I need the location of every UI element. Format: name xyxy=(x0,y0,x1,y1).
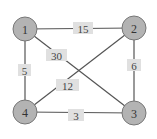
weight-label-1-2: 15 xyxy=(73,22,93,35)
graph-diagram: 15 30 5 6 12 3 1 2 xyxy=(0,0,157,139)
node-label: 4 xyxy=(22,106,28,120)
edge-2-4 xyxy=(25,28,134,112)
weight-text: 12 xyxy=(62,80,73,92)
node-2: 2 xyxy=(122,16,146,40)
node-1: 1 xyxy=(13,17,37,41)
weight-label-1-4: 5 xyxy=(18,64,31,77)
node-4: 4 xyxy=(13,100,37,124)
node-label: 3 xyxy=(131,107,137,121)
weight-text: 3 xyxy=(73,110,79,122)
node-label: 2 xyxy=(131,22,137,36)
weight-label-1-3: 30 xyxy=(46,49,67,62)
weight-text: 30 xyxy=(51,50,63,62)
weight-text: 15 xyxy=(78,23,90,35)
weight-label-4-3: 3 xyxy=(68,109,84,122)
weight-text: 6 xyxy=(131,60,137,72)
weight-label-2-4: 12 xyxy=(56,79,79,92)
weight-text: 5 xyxy=(22,65,28,77)
node-3: 3 xyxy=(122,101,146,125)
weight-label-2-3: 6 xyxy=(127,59,141,72)
edges xyxy=(25,28,134,113)
edge-1-3 xyxy=(25,29,134,113)
node-label: 1 xyxy=(22,23,28,37)
